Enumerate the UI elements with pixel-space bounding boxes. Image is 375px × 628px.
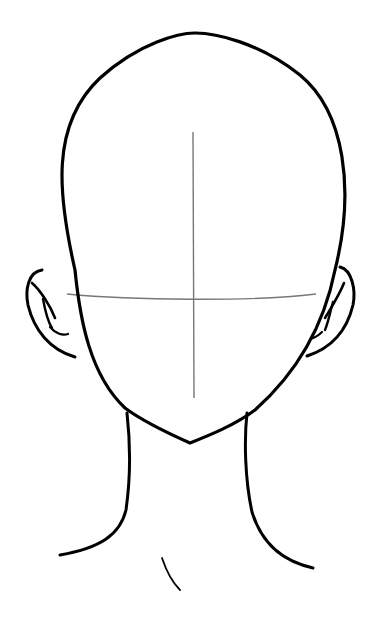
head-drawing bbox=[0, 0, 375, 628]
vertical-guide-line bbox=[193, 132, 194, 398]
drawing-canvas bbox=[0, 0, 375, 628]
